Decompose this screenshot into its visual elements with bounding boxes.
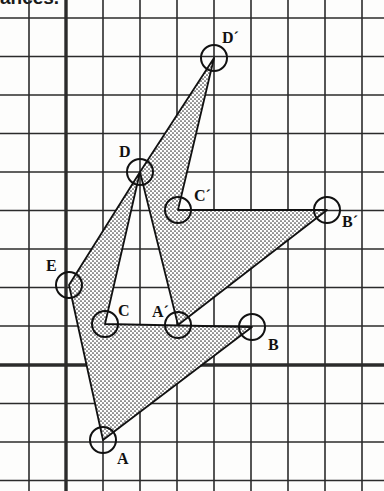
vertex-label-A: A (117, 451, 129, 467)
geometry-figure (0, 0, 384, 491)
diagram-canvas: ances. ABCDEA´B´C´D´ (0, 0, 384, 491)
vertex-label-B: B (268, 337, 279, 353)
vertex-label-D: D (119, 144, 131, 160)
vertex-label-E: E (46, 258, 57, 274)
pentagon-A-prime-B-prime-C-prime-D-prime (140, 58, 327, 325)
vertex-label-C: C (118, 303, 130, 319)
vertex-label-Cp: C´ (194, 188, 211, 204)
vertex-label-Ap: A´ (152, 304, 169, 320)
vertex-label-Bp: B´ (342, 214, 358, 230)
vertex-label-Dp: D´ (222, 30, 239, 46)
